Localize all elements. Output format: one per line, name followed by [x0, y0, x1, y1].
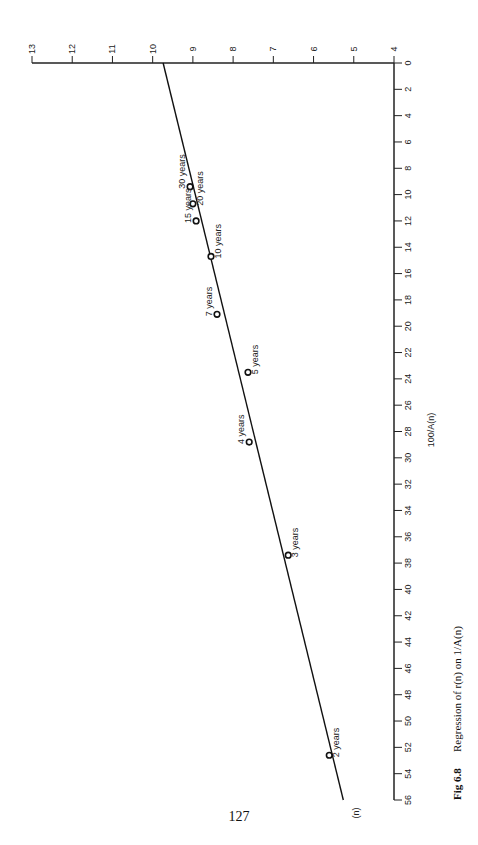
y-tick-label: 4	[389, 46, 399, 51]
x-tick-label: 38	[403, 558, 413, 568]
x-tick-label: 36	[403, 532, 413, 542]
x-tick-label: 54	[403, 769, 413, 779]
x-tick-label: 22	[403, 348, 413, 358]
x-tick-label: 52	[403, 742, 413, 752]
x-tick-label: 34	[403, 505, 413, 515]
x-tick-label: 26	[403, 400, 413, 410]
y-tick-label: 7	[268, 46, 278, 51]
data-point-label: 15 years	[183, 188, 193, 223]
x-tick-label: 28	[403, 426, 413, 436]
y-tick-label: 10	[148, 44, 158, 54]
x-tick-label: 0	[403, 60, 413, 65]
x-tick-label: 48	[403, 690, 413, 700]
x-axis-100-over-A-n: 0246810121416182022242628303234363840424…	[394, 60, 413, 805]
data-point-label: 4 years	[236, 414, 246, 444]
x-tick-label: 30	[403, 453, 413, 463]
y-tick-label: 6	[309, 46, 319, 51]
caption-fig-number: Fig 6.8	[451, 768, 463, 800]
data-point-label: 20 years	[195, 171, 205, 206]
x-tick-label: 44	[403, 637, 413, 647]
y-tick-label: 5	[349, 46, 359, 51]
x-tick-label: 12	[403, 216, 413, 226]
x-tick-label: 8	[403, 166, 413, 171]
x-axis-label: 100/A(n)	[426, 413, 436, 448]
regression-chart: 45678910111213 0246810121416182022242628…	[0, 0, 478, 845]
data-point	[214, 312, 220, 318]
x-tick-label: 50	[403, 716, 413, 726]
y-tick-label: 11	[107, 44, 117, 53]
y-tick-label: 9	[188, 46, 198, 51]
x-tick-label: 56	[403, 795, 413, 805]
regression-line	[163, 63, 343, 800]
y-tick-label: 12	[67, 44, 77, 54]
x-tick-label: 18	[403, 295, 413, 305]
x-tick-label: 20	[403, 321, 413, 331]
page-number: 127	[0, 809, 478, 825]
data-point-label: 30 years	[177, 154, 187, 189]
y-tick-label: 8	[228, 46, 238, 51]
data-point	[193, 218, 199, 224]
x-tick-label: 24	[403, 374, 413, 384]
x-tick-label: 14	[403, 242, 413, 252]
data-point-label: 10 years	[213, 223, 223, 258]
x-tick-label: 4	[403, 113, 413, 118]
figure-caption: Fig 6.8 Regression of r(n) on 1/A(n)	[451, 626, 464, 800]
y-axis-r-n: 45678910111213	[27, 44, 399, 63]
x-tick-label: 40	[403, 584, 413, 594]
data-point-label: 7 years	[204, 286, 214, 316]
x-tick-label: 2	[403, 87, 413, 92]
x-tick-label: 10	[403, 190, 413, 200]
data-point-label: 5 years	[250, 344, 260, 374]
x-tick-label: 6	[403, 139, 413, 144]
x-tick-label: 16	[403, 269, 413, 279]
data-point-label: 3 years	[290, 527, 300, 557]
x-tick-label: 32	[403, 479, 413, 489]
caption-text: Regression of r(n) on 1/A(n)	[451, 626, 464, 752]
x-tick-label: 46	[403, 663, 413, 673]
y-tick-label: 13	[27, 44, 37, 54]
data-point-label: 2 years	[331, 727, 341, 757]
data-point	[246, 439, 252, 445]
x-tick-label: 42	[403, 611, 413, 621]
